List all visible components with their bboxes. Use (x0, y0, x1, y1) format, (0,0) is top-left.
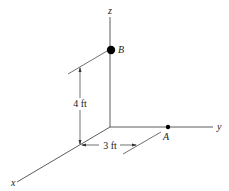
x-axis-label: x (10, 177, 16, 188)
extension-line-a (123, 132, 161, 154)
point-a (166, 125, 170, 129)
dimension-label-4ft: 4 ft (73, 98, 87, 109)
coordinate-diagram: z y x B A 4 ft 3 ft (0, 0, 229, 191)
dimension-label-3ft: 3 ft (103, 140, 117, 151)
point-a-label: A (162, 131, 170, 142)
z-axis-label: z (107, 5, 112, 16)
y-axis-label: y (216, 121, 222, 132)
point-b (107, 46, 115, 54)
x-axis (17, 127, 110, 182)
point-b-label: B (118, 44, 124, 55)
extension-line-b (68, 51, 107, 74)
